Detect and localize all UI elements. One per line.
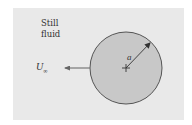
- still-fluid-label: Still fluid: [41, 18, 60, 40]
- sphere-diagram: a Still fluid U∞: [0, 0, 192, 125]
- velocity-label: U∞: [36, 61, 48, 74]
- radius-label: a: [127, 52, 132, 62]
- diagram-graphics: a: [0, 0, 192, 125]
- velocity-subscript: ∞: [43, 68, 47, 74]
